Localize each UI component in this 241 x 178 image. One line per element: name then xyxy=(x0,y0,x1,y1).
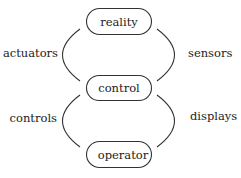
edge-displays-label: displays xyxy=(190,109,237,123)
edge-sensors-label: sensors xyxy=(188,46,232,60)
edge-actuators-label: actuators xyxy=(3,46,58,60)
edge-controls-arc xyxy=(63,95,81,147)
node-control-label: control xyxy=(98,81,140,95)
edge-sensors-arc xyxy=(157,29,175,81)
node-operator-label: operator xyxy=(98,148,149,162)
control-loop-diagram: reality control operator actuators senso… xyxy=(0,0,241,178)
node-control: control xyxy=(87,76,152,101)
node-operator: operator xyxy=(87,142,152,168)
node-reality-label: reality xyxy=(100,15,138,29)
edge-actuators-arc xyxy=(63,29,81,81)
node-reality: reality xyxy=(87,9,152,35)
edge-controls-label: controls xyxy=(10,111,57,125)
edge-displays-arc xyxy=(157,95,175,147)
